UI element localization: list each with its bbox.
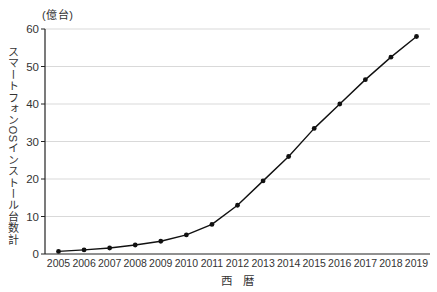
- data-point-2009: [158, 239, 163, 244]
- data-point-2011: [210, 222, 215, 227]
- x-tick-label-2013: 2013: [251, 257, 275, 269]
- data-point-2013: [261, 178, 266, 183]
- smartphone-os-install-chart: (億台) スマートフォンOSインストール台数計 0102030405060200…: [0, 0, 437, 292]
- x-axis-title: 西 暦: [45, 272, 430, 288]
- data-point-2012: [235, 203, 240, 208]
- data-point-2008: [133, 243, 138, 248]
- data-point-2007: [107, 246, 112, 251]
- x-tick-label-2006: 2006: [72, 257, 96, 269]
- data-point-2017: [363, 77, 368, 82]
- data-line: [59, 37, 417, 252]
- x-tick-label-2016: 2016: [328, 257, 352, 269]
- line-plot-canvas: 0102030405060200520062007200820092010201…: [0, 0, 437, 292]
- x-tick-label-2008: 2008: [124, 257, 148, 269]
- y-tick-label-30: 30: [26, 136, 39, 148]
- y-tick-label-40: 40: [26, 98, 39, 110]
- y-tick-label-50: 50: [26, 61, 39, 73]
- x-tick-label-2019: 2019: [405, 257, 429, 269]
- y-tick-label-60: 60: [26, 23, 39, 35]
- y-tick-label-10: 10: [26, 211, 39, 223]
- x-tick-label-2011: 2011: [201, 257, 224, 269]
- x-tick-label-2005: 2005: [47, 257, 71, 269]
- data-point-2015: [312, 126, 317, 131]
- y-tick-label-20: 20: [26, 173, 39, 185]
- y-tick-label-0: 0: [33, 248, 39, 260]
- x-tick-label-2015: 2015: [303, 257, 327, 269]
- data-point-2016: [337, 102, 342, 107]
- x-tick-label-2017: 2017: [354, 257, 378, 269]
- data-point-2014: [286, 154, 291, 159]
- data-point-2006: [82, 247, 87, 252]
- x-tick-label-2012: 2012: [226, 257, 250, 269]
- x-tick-label-2007: 2007: [98, 257, 122, 269]
- data-point-2010: [184, 232, 189, 237]
- x-tick-label-2010: 2010: [175, 257, 199, 269]
- data-point-2018: [389, 55, 394, 60]
- data-point-2019: [414, 34, 419, 39]
- x-tick-label-2018: 2018: [379, 257, 403, 269]
- x-tick-label-2014: 2014: [277, 257, 301, 269]
- x-tick-label-2009: 2009: [149, 257, 173, 269]
- data-point-2005: [56, 249, 61, 254]
